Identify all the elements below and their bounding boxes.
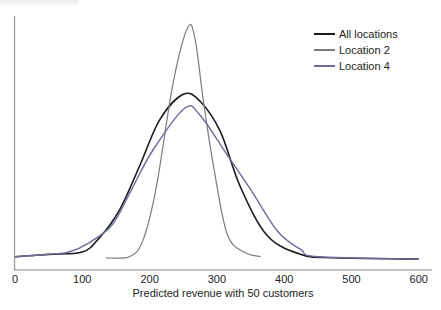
x-tick-label: 0 [12,273,18,285]
x-tick-label: 200 [140,273,158,285]
x-tick-label: 600 [410,273,428,285]
series-line-location-2 [106,24,261,258]
x-tick-label: 100 [73,273,91,285]
legend-swatch-line-icon [314,33,335,35]
legend-item-location-2: Location 2 [314,42,398,58]
legend-label: Location 2 [339,44,390,56]
legend: All locations Location 2 Location 4 [314,26,398,74]
legend-label: All locations [339,28,398,40]
x-tick-label: 500 [342,273,360,285]
x-tick-label: 400 [275,273,293,285]
x-tick-label: 300 [208,273,226,285]
series-line-all-locations [15,93,419,259]
legend-item-location-4: Location 4 [314,58,398,74]
legend-swatch-line-icon [314,49,335,51]
legend-item-all-locations: All locations [314,26,398,42]
x-axis-title: Predicted revenue with 50 customers [133,287,314,299]
legend-label: Location 4 [339,60,390,72]
legend-swatch-line-icon [314,65,335,67]
